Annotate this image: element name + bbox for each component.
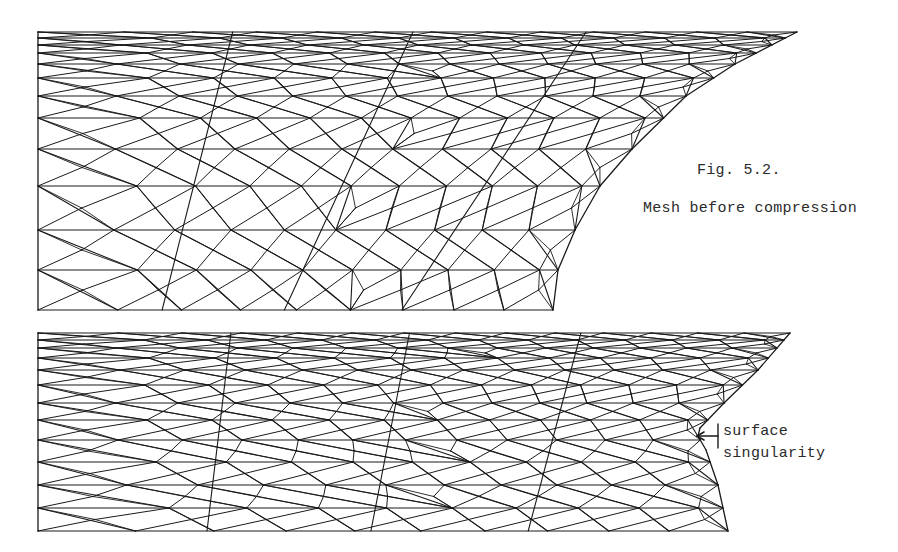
mesh-before-compression — [38, 32, 797, 310]
mesh-after-compression — [38, 333, 790, 531]
mesh-figure — [0, 0, 898, 552]
figure-number: Fig. 5.2. — [697, 162, 781, 179]
figure-caption: Mesh before compression — [643, 200, 857, 217]
annotation-label-line2: singularity — [723, 445, 825, 462]
annotation-label-line1: surface — [723, 423, 788, 440]
